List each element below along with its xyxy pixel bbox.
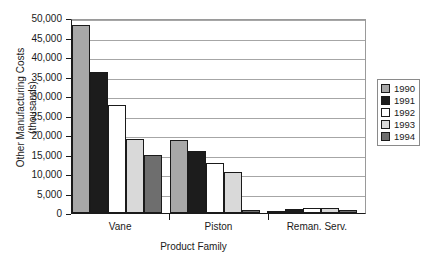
legend-swatch-icon — [381, 120, 390, 129]
legend-label: 1993 — [394, 120, 415, 130]
bar-group — [72, 20, 170, 213]
bar — [267, 211, 285, 213]
legend-label: 1991 — [394, 96, 415, 106]
bar — [72, 25, 90, 213]
bar-group — [170, 20, 268, 213]
legend-item: 1994 — [381, 131, 415, 142]
plot-area — [71, 19, 366, 214]
y-axis-tick-label: 20,000 — [2, 131, 62, 141]
legend-swatch-icon — [381, 84, 390, 93]
x-axis-category-separator — [169, 214, 170, 220]
bar — [170, 140, 188, 213]
legend-label: 1990 — [394, 84, 415, 94]
y-axis-tick-label: 30,000 — [2, 92, 62, 102]
legend-label: 1992 — [394, 108, 415, 118]
legend-item: 1991 — [381, 95, 415, 106]
legend-swatch-icon — [381, 108, 390, 117]
legend-swatch-icon — [381, 96, 390, 105]
y-axis-tick-label: 45,000 — [2, 34, 62, 44]
legend-swatch-icon — [381, 132, 390, 141]
bar — [108, 105, 126, 213]
bar — [303, 208, 321, 213]
y-axis-tick-label: 50,000 — [2, 14, 62, 24]
legend-label: 1994 — [394, 132, 415, 142]
legend-item: 1993 — [381, 119, 415, 130]
bar — [339, 210, 357, 213]
y-axis-tick-label: 10,000 — [2, 170, 62, 180]
bar — [144, 155, 162, 214]
x-axis-category-label: Vane — [70, 221, 170, 233]
legend-item: 1990 — [381, 83, 415, 94]
bar — [224, 172, 242, 213]
y-axis-tick-label: 35,000 — [2, 73, 62, 83]
y-axis-tick — [66, 214, 71, 215]
bar-groups — [72, 20, 365, 213]
bar — [285, 209, 303, 213]
x-axis-category-separator — [268, 214, 269, 220]
bar-group — [267, 20, 365, 213]
bar — [321, 208, 339, 213]
y-axis-tick-label: 0 — [2, 209, 62, 219]
legend: 19901991199219931994 — [377, 79, 420, 146]
bar — [90, 72, 108, 213]
bar — [206, 163, 224, 213]
x-axis-title: Product Family — [0, 241, 435, 252]
y-axis-tick-label: 15,000 — [2, 151, 62, 161]
x-axis-category-label: Reman. Serv. — [267, 221, 367, 233]
y-axis-tick-label: 25,000 — [2, 112, 62, 122]
bar — [242, 210, 260, 213]
y-axis-tick-label: 5,000 — [2, 190, 62, 200]
bar — [188, 151, 206, 213]
bar-chart: Other Manufacturing Costs (thousands) 50… — [0, 0, 435, 259]
y-axis-tick-label: 40,000 — [2, 53, 62, 63]
bar — [126, 139, 144, 213]
x-axis-category-label: Piston — [169, 221, 269, 233]
x-axis-title-text: Product Family — [160, 241, 227, 252]
legend-item: 1992 — [381, 107, 415, 118]
